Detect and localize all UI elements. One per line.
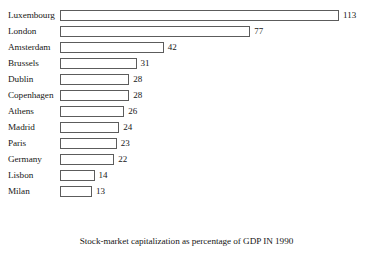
bar-category-label: Brussels xyxy=(0,55,60,71)
bar-track: 23 xyxy=(60,135,373,151)
bar-rect xyxy=(60,74,129,85)
bar-row: Athens26 xyxy=(0,103,373,119)
bar-row: Copenhagen28 xyxy=(0,87,373,103)
bar-row: Lisbon14 xyxy=(0,167,373,183)
bar-track: 24 xyxy=(60,119,373,135)
bar-category-label: Paris xyxy=(0,135,60,151)
bar-category-label: Madrid xyxy=(0,119,60,135)
bar-rect xyxy=(60,90,129,101)
bar-track: 28 xyxy=(60,87,373,103)
bar-value-label: 31 xyxy=(141,58,150,69)
bar-category-label: Luxembourg xyxy=(0,7,60,23)
bar-rect xyxy=(60,170,95,181)
bar-track: 22 xyxy=(60,151,373,167)
bar-track: 26 xyxy=(60,103,373,119)
bar-chart-plot-area: Luxembourg113London77Amsterdam42Brussels… xyxy=(0,7,373,199)
bar-category-label: Amsterdam xyxy=(0,39,60,55)
bar-rect xyxy=(60,58,137,69)
bar-category-label: Lisbon xyxy=(0,167,60,183)
bar-track: 31 xyxy=(60,55,373,71)
bar-row: Milan13 xyxy=(0,183,373,199)
bar-value-label: 28 xyxy=(133,74,142,85)
bar-rect xyxy=(60,138,117,149)
bar-row: Madrid24 xyxy=(0,119,373,135)
bar-row: Dublin28 xyxy=(0,71,373,87)
bar-value-label: 42 xyxy=(168,42,177,53)
chart-caption: Stock-market capitalization as percentag… xyxy=(0,236,373,246)
bar-category-label: Milan xyxy=(0,183,60,199)
bar-row: Paris23 xyxy=(0,135,373,151)
bar-rect xyxy=(60,154,114,165)
bar-rect xyxy=(60,122,119,133)
bar-track: 14 xyxy=(60,167,373,183)
bar-value-label: 23 xyxy=(121,138,130,149)
bar-track: 77 xyxy=(60,23,373,39)
bar-value-label: 22 xyxy=(118,154,127,165)
bar-row: Luxembourg113 xyxy=(0,7,373,23)
bar-rect xyxy=(60,186,92,197)
bar-rect xyxy=(60,106,124,117)
bar-value-label: 24 xyxy=(123,122,132,133)
bar-track: 113 xyxy=(60,7,373,23)
bar-category-label: Athens xyxy=(0,103,60,119)
bar-category-label: Copenhagen xyxy=(0,87,60,103)
bar-value-label: 26 xyxy=(128,106,137,117)
bar-track: 28 xyxy=(60,71,373,87)
bar-row: London77 xyxy=(0,23,373,39)
bar-category-label: London xyxy=(0,23,60,39)
bar-chart-figure: Luxembourg113London77Amsterdam42Brussels… xyxy=(0,0,373,253)
bar-category-label: Dublin xyxy=(0,71,60,87)
bar-row: Germany22 xyxy=(0,151,373,167)
bar-row: Brussels31 xyxy=(0,55,373,71)
bar-rect xyxy=(60,26,250,37)
bar-row: Amsterdam42 xyxy=(0,39,373,55)
bar-value-label: 13 xyxy=(96,186,105,197)
bar-value-label: 113 xyxy=(343,10,356,21)
bar-value-label: 77 xyxy=(254,26,263,37)
bar-value-label: 14 xyxy=(99,170,108,181)
bar-track: 13 xyxy=(60,183,373,199)
bar-rect xyxy=(60,10,339,21)
bar-value-label: 28 xyxy=(133,90,142,101)
bar-track: 42 xyxy=(60,39,373,55)
bar-category-label: Germany xyxy=(0,151,60,167)
bar-rect xyxy=(60,42,164,53)
